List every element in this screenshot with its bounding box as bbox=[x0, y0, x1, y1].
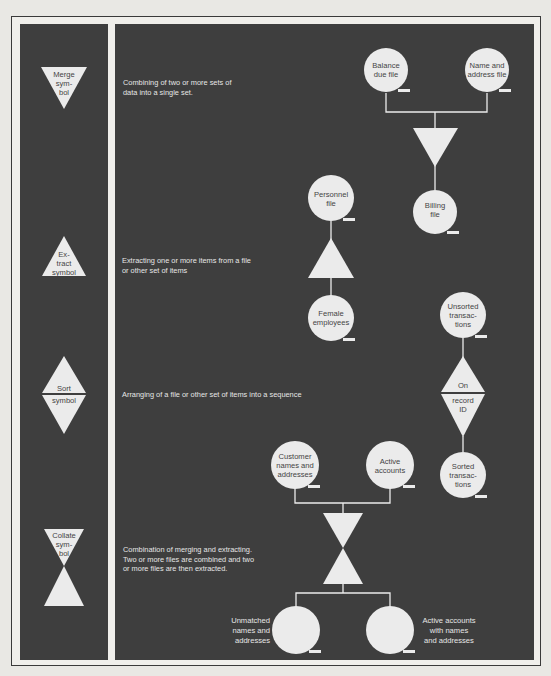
unmatched-names-file-icon bbox=[272, 606, 321, 654]
customer-names-label: Customer names and addresses bbox=[267, 452, 323, 479]
merge-process-icon bbox=[413, 128, 458, 167]
sort-symbol-label-top: Sort bbox=[44, 384, 84, 393]
sorted-transactions-label: Sorted transac- tions bbox=[437, 462, 489, 489]
sort-symbol-label-bottom: symbol bbox=[44, 396, 84, 405]
flow-diagram bbox=[0, 0, 551, 676]
sort-symbol-icon bbox=[42, 356, 86, 434]
collate-symbol-label: Collate sym- bol bbox=[44, 531, 84, 558]
balance-due-file-label: Balance due file bbox=[362, 61, 410, 79]
merge-symbol-label: Merge sym- bol bbox=[44, 70, 84, 97]
personnel-file-label: Personnel file bbox=[305, 190, 357, 208]
sort-key-top-label: On bbox=[441, 381, 485, 390]
merge-description: Combining of two or more sets of data in… bbox=[123, 78, 231, 97]
unsorted-transactions-label: Unsorted transac- tions bbox=[437, 302, 489, 329]
extract-process-icon bbox=[308, 238, 354, 278]
sort-description: Arranging of a file or other set of item… bbox=[122, 390, 302, 400]
active-accounts-with-names-label: Active accounts with names and addresses bbox=[416, 616, 482, 646]
female-employees-label: Female employees bbox=[303, 309, 359, 327]
name-address-file-label: Name and address file bbox=[460, 61, 514, 79]
extract-description: Extracting one or more items from a file… bbox=[122, 256, 251, 275]
sort-key-bottom-label: record ID bbox=[441, 396, 485, 414]
unmatched-names-label: Unmatched names and addresses bbox=[214, 616, 270, 646]
active-accounts-with-names-file-icon bbox=[366, 606, 415, 654]
billing-file-label: Billing file bbox=[411, 201, 459, 219]
extract-symbol-label: Ex- tract symbol bbox=[44, 250, 84, 277]
active-accounts-label: Active accounts bbox=[364, 457, 416, 475]
collate-description: Combination of merging and extracting. T… bbox=[123, 545, 254, 574]
collate-process-icon bbox=[323, 513, 363, 584]
